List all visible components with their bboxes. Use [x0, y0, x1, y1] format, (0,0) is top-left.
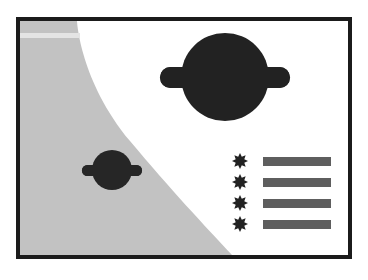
list-item-bar: [263, 178, 331, 187]
list-item-bar: [263, 199, 331, 208]
small-planet-ring-front: [82, 165, 142, 176]
list-item-bar: [263, 220, 331, 229]
poster-frame: [16, 17, 352, 259]
list-item[interactable]: [232, 173, 336, 194]
eight-point-star-icon: [232, 195, 248, 211]
horizon-highlight-streak: [20, 33, 80, 38]
poster-illustration: [0, 0, 368, 280]
eight-point-star-icon: [232, 153, 248, 169]
eight-point-star-icon: [232, 216, 248, 232]
eight-point-star-icon: [232, 174, 248, 190]
list-item[interactable]: [232, 152, 336, 173]
list-item[interactable]: [232, 215, 336, 236]
list-item-bar: [263, 157, 331, 166]
large-planet-ring-front: [160, 67, 290, 88]
starred-list: [232, 152, 336, 236]
list-item[interactable]: [232, 194, 336, 215]
